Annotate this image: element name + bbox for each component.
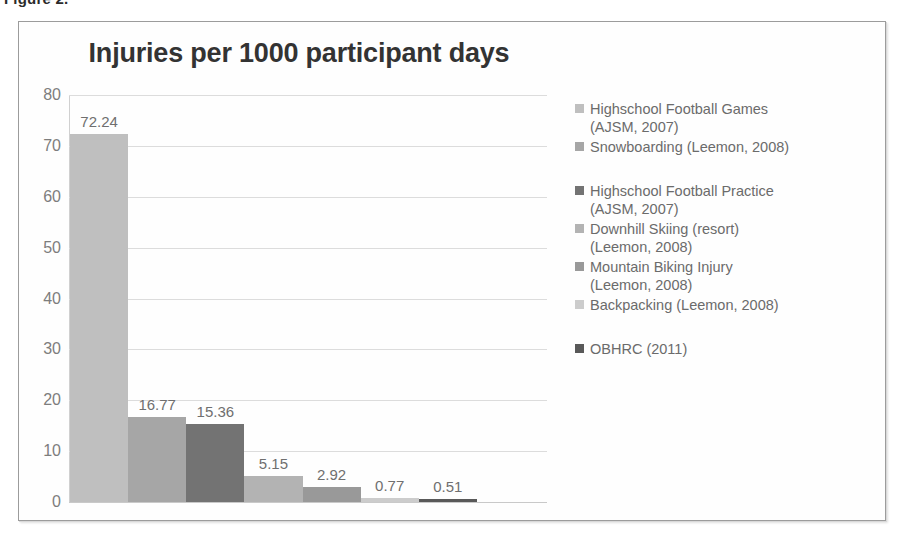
bar-slot[interactable]: 5.15	[244, 95, 302, 502]
bar-value-label: 0.77	[375, 477, 404, 494]
y-axis-tick-label: 10	[43, 442, 61, 460]
bar-slot[interactable]: 0.51	[419, 95, 477, 502]
legend-swatch-icon	[575, 142, 584, 151]
legend-item[interactable]: Highschool Football Practice(AJSM, 2007)	[575, 182, 875, 218]
chart-legend: Highschool Football Games(AJSM, 2007)Sno…	[575, 100, 875, 360]
y-axis-tick-label: 0	[52, 493, 61, 511]
bar[interactable]	[70, 134, 128, 502]
legend-item[interactable]: Mountain Biking Injury(Leemon, 2008)	[575, 258, 875, 294]
bar-slot[interactable]: 15.36	[186, 95, 244, 502]
legend-swatch-icon	[575, 344, 584, 353]
y-axis-tick-label: 20	[43, 391, 61, 409]
bar-slot[interactable]: 2.92	[303, 95, 361, 502]
bar-slot[interactable]: 72.24	[70, 95, 128, 502]
bar-value-label: 2.92	[317, 466, 346, 483]
chart-title: Injuries per 1000 participant days	[19, 38, 579, 69]
y-axis-tick-label: 70	[43, 137, 61, 155]
legend-item-label: Highschool Football Games(AJSM, 2007)	[590, 100, 768, 136]
legend-item-label: OBHRC (2011)	[590, 340, 687, 358]
legend-item[interactable]: Highschool Football Games(AJSM, 2007)	[575, 100, 875, 136]
legend-swatch-icon	[575, 186, 584, 195]
bar-slot[interactable]: 16.77	[128, 95, 186, 502]
bar-value-label: 16.77	[138, 396, 176, 413]
bar[interactable]	[303, 487, 361, 502]
legend-item[interactable]: Downhill Skiing (resort)(Leemon, 2008)	[575, 220, 875, 256]
gridline	[69, 502, 547, 503]
bar-slot[interactable]: 0.77	[361, 95, 419, 502]
figure-container: Figure 2. Injuries per 1000 participant …	[0, 0, 906, 540]
legend-item-label: Highschool Football Practice(AJSM, 2007)	[590, 182, 774, 218]
legend-item-label: Mountain Biking Injury(Leemon, 2008)	[590, 258, 733, 294]
bar[interactable]	[128, 417, 186, 502]
bar[interactable]	[361, 498, 419, 502]
y-axis-tick-label: 40	[43, 290, 61, 308]
y-axis-tick-label: 60	[43, 188, 61, 206]
legend-swatch-icon	[575, 300, 584, 309]
y-axis-tick-label: 50	[43, 239, 61, 257]
bar[interactable]	[186, 424, 244, 502]
legend-swatch-icon	[575, 224, 584, 233]
legend-item[interactable]: Snowboarding (Leemon, 2008)	[575, 138, 875, 156]
legend-swatch-icon	[575, 262, 584, 271]
y-axis-tick-label: 30	[43, 340, 61, 358]
legend-item-label: Backpacking (Leemon, 2008)	[590, 296, 779, 314]
chart-frame: Injuries per 1000 participant days 80706…	[18, 21, 886, 521]
legend-swatch-icon	[575, 104, 584, 113]
legend-item-label: Snowboarding (Leemon, 2008)	[590, 138, 789, 156]
bar-value-label: 0.51	[433, 478, 462, 495]
legend-item-label: Downhill Skiing (resort)(Leemon, 2008)	[590, 220, 739, 256]
legend-item[interactable]: Backpacking (Leemon, 2008)	[575, 296, 875, 314]
plot-area: 80706050403020100 72.2416.7715.365.152.9…	[69, 95, 547, 502]
bar[interactable]	[419, 499, 477, 502]
bar[interactable]	[244, 476, 302, 502]
bar-value-label: 72.24	[80, 113, 118, 130]
bar-value-label: 5.15	[259, 455, 288, 472]
bar-value-label: 15.36	[197, 403, 235, 420]
y-axis-tick-label: 80	[43, 86, 61, 104]
bar-series: 72.2416.7715.365.152.920.770.51	[70, 95, 477, 502]
legend-item[interactable]: OBHRC (2011)	[575, 340, 875, 358]
figure-caption: Figure 2.	[4, 0, 68, 7]
